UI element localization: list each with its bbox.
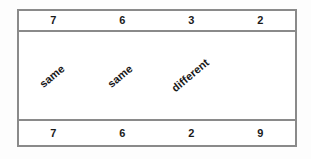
table-cell-label-3: different — [157, 32, 226, 119]
table-cell-bottom-2: 6 — [88, 121, 157, 145]
table-cell-label-4 — [226, 32, 295, 119]
table-row-top-numbers: 7 6 3 2 — [19, 11, 295, 32]
table-row-bottom-numbers: 7 6 2 9 — [19, 121, 295, 145]
comparison-table: 7 6 3 2 same same different — [17, 9, 297, 147]
table-row-comparison-labels: same same different — [19, 32, 295, 121]
table-cell-bottom-4: 9 — [226, 121, 295, 145]
table-cell-bottom-3: 2 — [157, 121, 226, 145]
table-cell-bottom-1: 7 — [19, 121, 88, 145]
top-number-4: 2 — [257, 15, 263, 26]
table-cell-top-4: 2 — [226, 11, 295, 30]
comparison-label-3: different — [170, 57, 211, 94]
bottom-number-1: 7 — [50, 128, 56, 139]
top-number-2: 6 — [119, 15, 125, 26]
table-cell-top-3: 3 — [157, 11, 226, 30]
table-cell-label-2: same — [88, 32, 157, 119]
table-cell-label-1: same — [19, 32, 88, 119]
table-cell-top-2: 6 — [88, 11, 157, 30]
top-number-1: 7 — [50, 15, 56, 26]
bottom-number-3: 2 — [188, 128, 194, 139]
page-canvas: 7 6 3 2 same same different — [0, 0, 311, 159]
comparison-label-1: same — [38, 63, 67, 90]
top-number-3: 3 — [188, 15, 194, 26]
bottom-number-2: 6 — [119, 128, 125, 139]
comparison-label-2: same — [106, 63, 135, 90]
table-cell-top-1: 7 — [19, 11, 88, 30]
bottom-number-4: 9 — [257, 128, 263, 139]
